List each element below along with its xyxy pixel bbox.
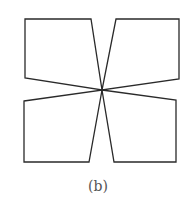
top-right-quadrilateral bbox=[102, 19, 179, 90]
top-left-quadrilateral bbox=[25, 19, 102, 90]
figure-caption: (b) bbox=[0, 178, 196, 194]
bottom-right-quadrilateral bbox=[102, 90, 176, 162]
figure-drawing bbox=[0, 0, 196, 202]
bottom-left-quadrilateral bbox=[24, 90, 102, 162]
